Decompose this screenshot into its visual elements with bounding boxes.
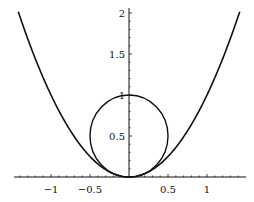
x-tick-label: 1 [204,184,210,195]
chart: −1−0.50.510.511.52 [0,0,254,202]
axes: −1−0.50.510.511.52 [14,8,246,195]
plot-canvas: −1−0.50.510.511.52 [0,0,254,202]
y-tick-label: 0.5 [109,131,125,142]
y-tick-label: 2 [119,8,125,19]
x-tick-label: 0.5 [160,184,176,195]
x-tick-label: −0.5 [78,184,102,195]
x-tick-label: −1 [44,184,59,195]
y-tick-label: 1.5 [109,49,125,60]
